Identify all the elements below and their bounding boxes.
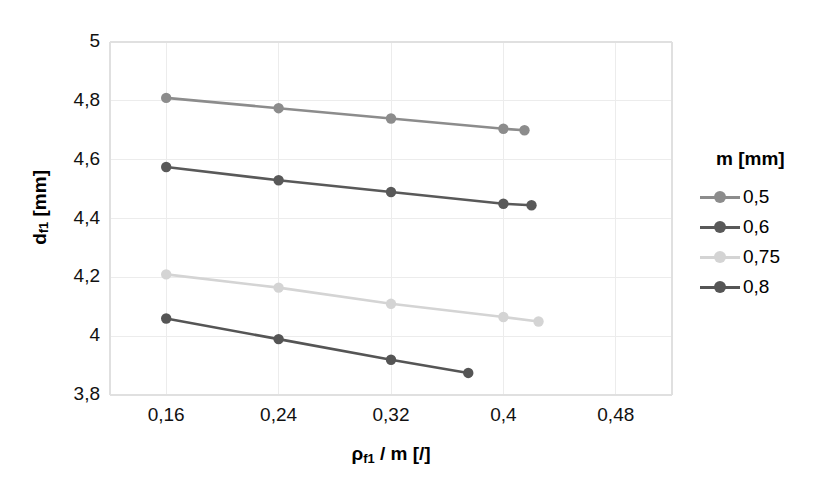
x-axis-tick-label: 0,16	[116, 404, 216, 426]
x-axis-title-rest: / m [/]	[375, 443, 431, 464]
legend-entries: 0,50,60,750,8	[700, 182, 819, 302]
y-axis-title: df1 [mm]	[29, 137, 52, 277]
data-series-group	[161, 93, 544, 378]
data-point-marker	[519, 125, 529, 135]
series-line	[166, 319, 468, 373]
x-axis-tick-label: 0,32	[341, 404, 441, 426]
x-axis-title-subscript: f1	[363, 451, 374, 466]
legend-marker-icon	[714, 221, 726, 233]
legend-marker-icon	[714, 251, 726, 263]
legend-entry[interactable]: 0,5	[700, 182, 819, 212]
x-axis-tick-label: 0,24	[229, 404, 329, 426]
series-line	[166, 167, 531, 205]
data-point-marker	[386, 187, 396, 197]
gridlines	[110, 42, 672, 395]
y-axis-title-subscript: f1	[36, 222, 51, 233]
data-point-marker	[161, 313, 171, 323]
x-axis-tick-label: 0,48	[566, 404, 666, 426]
x-axis-tick-label: 0,4	[453, 404, 553, 426]
data-point-marker	[498, 312, 508, 322]
legend-marker-icon	[714, 281, 726, 293]
legend: m [mm] 0,50,60,750,8	[700, 148, 819, 302]
data-point-marker	[386, 355, 396, 365]
series-line	[166, 274, 538, 321]
data-point-marker	[273, 334, 283, 344]
legend-label: 0,6	[743, 216, 769, 238]
data-point-marker	[386, 299, 396, 309]
chart-figure: 54,84,64,44,243,8 0,160,240,320,40,48 df…	[0, 0, 819, 491]
y-axis-title-symbol: d	[29, 233, 50, 245]
legend-entry[interactable]: 0,8	[700, 272, 819, 302]
legend-label: 0,8	[743, 276, 769, 298]
legend-entry[interactable]: 0,6	[700, 212, 819, 242]
legend-swatch	[700, 279, 740, 295]
legend-entry[interactable]: 0,75	[700, 242, 819, 272]
data-point-marker	[161, 269, 171, 279]
y-axis-tick-label: 4,8	[20, 89, 100, 111]
series-line	[166, 98, 524, 130]
x-axis-title: ρf1 / m [/]	[110, 443, 672, 466]
data-point-marker	[526, 200, 536, 210]
y-axis-tick-label: 4	[20, 324, 100, 346]
data-point-marker	[273, 103, 283, 113]
data-point-marker	[273, 175, 283, 185]
y-axis-title-unit: [mm]	[29, 170, 50, 222]
data-point-marker	[498, 199, 508, 209]
data-point-marker	[161, 162, 171, 172]
data-point-marker	[463, 368, 473, 378]
data-point-marker	[533, 316, 543, 326]
y-axis-tick-label: 5	[20, 30, 100, 52]
data-point-marker	[386, 113, 396, 123]
legend-label: 0,75	[743, 246, 780, 268]
data-point-marker	[161, 93, 171, 103]
legend-marker-icon	[714, 191, 726, 203]
legend-swatch	[700, 189, 740, 205]
legend-swatch	[700, 249, 740, 265]
y-axis-tick-label: 3,8	[20, 383, 100, 405]
legend-swatch	[700, 219, 740, 235]
data-point-marker	[498, 124, 508, 134]
legend-title: m [mm]	[716, 148, 819, 170]
data-point-marker	[273, 282, 283, 292]
x-axis-title-symbol: ρ	[351, 443, 363, 464]
legend-label: 0,5	[743, 186, 769, 208]
